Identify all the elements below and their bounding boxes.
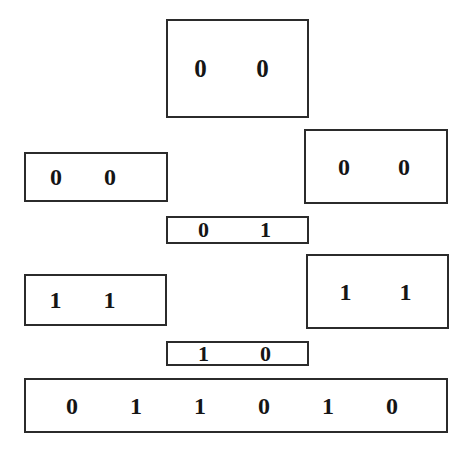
upper-left-bit-box: 0 0 [24,152,168,202]
bit-group: 0 0 [306,155,446,179]
bit-group: 0 0 [26,165,166,189]
bit-group: 1 0 [168,343,307,365]
diagram-canvas: 0 0 0 0 0 0 0 1 1 1 1 1 1 [0,0,471,456]
bit-cell: 1 [83,288,137,312]
bottom-result-bit-box: 0 1 1 0 1 0 [24,378,448,433]
bit-cell: 0 [29,165,83,189]
bit-cell: 0 [314,155,374,179]
top-bit-box: 0 0 [166,19,309,118]
bit-cell: 0 [232,56,294,81]
bit-cell: 0 [235,343,297,365]
bit-group: 1 1 [26,288,165,312]
bit-cell: 0 [360,394,424,418]
bit-cell: 0 [40,394,104,418]
bit-group: 0 0 [168,56,307,81]
bit-cell: 0 [170,56,232,81]
lower-right-bit-box: 1 1 [306,254,449,329]
bit-cell: 1 [296,394,360,418]
lower-middle-bit-box: 1 0 [166,341,309,366]
bit-cell: 1 [376,280,436,304]
bit-cell: 0 [232,394,296,418]
bit-cell: 1 [235,219,297,241]
bit-cell: 0 [374,155,434,179]
upper-right-bit-box: 0 0 [304,129,448,204]
upper-middle-bit-box: 0 1 [166,216,309,244]
bit-cell: 1 [104,394,168,418]
bit-cell: 1 [316,280,376,304]
lower-left-bit-box: 1 1 [24,274,167,326]
bit-group: 1 1 [308,280,447,304]
bit-cell: 1 [168,394,232,418]
bit-cell: 0 [173,219,235,241]
bit-cell: 1 [29,288,83,312]
bit-cell: 0 [83,165,137,189]
bit-cell: 1 [173,343,235,365]
bit-group: 0 1 [168,219,307,241]
bit-group: 0 1 1 0 1 0 [26,394,446,418]
